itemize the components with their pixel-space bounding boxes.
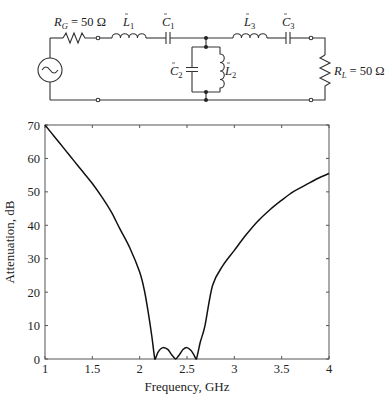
x-tick-label: 4 (326, 362, 333, 376)
terminal-node-top-right (309, 36, 313, 40)
x-tick-label: 3 (231, 362, 237, 376)
x-tick-label: 2.5 (179, 362, 195, 376)
attenuation-chart: 11.522.533.54 010203040506070 Frequency,… (0, 110, 392, 400)
terminal-node-bottom-right (309, 98, 313, 102)
label-rg: RG = 50 Ω (53, 15, 106, 31)
resistor-rg (63, 33, 96, 43)
sine-wave-icon (42, 67, 58, 73)
capacitor-c2 (186, 47, 198, 92)
y-tick-label: 40 (28, 219, 41, 233)
x-tick-label: 1 (42, 362, 48, 376)
y-tick-label: 0 (34, 353, 40, 367)
inductor-l1 (112, 34, 146, 38)
capacitor-c1 (166, 32, 170, 44)
x-axis-ticks: 11.522.533.54 (42, 125, 333, 376)
x-tick-label: 2 (137, 362, 143, 376)
capacitor-c3 (286, 32, 290, 44)
junction-dot-bottom-inner (204, 90, 208, 94)
inductor-l3 (233, 34, 267, 38)
resistor-rl (313, 55, 330, 100)
label-l1: L1 (122, 15, 134, 31)
x-tick-label: 1.5 (85, 362, 101, 376)
y-axis-ticks: 010203040506070 (28, 119, 330, 367)
label-rl: RL = 50 Ω (333, 64, 385, 80)
y-tick-label: 70 (28, 119, 41, 133)
y-tick-label: 10 (28, 319, 41, 333)
label-c3: C3 (282, 15, 295, 31)
y-tick-label: 60 (28, 152, 41, 166)
label-c1: C1 (162, 15, 175, 31)
circuit-diagram: RG = 50 Ω L1 C1 L3 C3 C2 L2 RL = 50 Ω (0, 0, 392, 110)
label-c2: C2 (170, 64, 183, 80)
plot-frame (45, 125, 329, 359)
inductor-l2 (220, 47, 224, 92)
x-axis-label: Frequency, GHz (144, 379, 229, 394)
junction-dot-bottom (204, 98, 208, 102)
y-tick-label: 20 (28, 286, 41, 300)
attenuation-curve (45, 125, 329, 359)
wire-node-rl (313, 38, 325, 55)
junction-dot-top-inner (204, 45, 208, 49)
label-l3: L3 (243, 15, 255, 31)
x-tick-label: 3.5 (274, 362, 290, 376)
terminal-node-top-left (96, 36, 100, 40)
y-tick-label: 30 (28, 252, 41, 266)
junction-dot-top (204, 36, 208, 40)
label-l2: L2 (224, 64, 236, 80)
y-tick-label: 50 (28, 185, 41, 199)
y-axis-label: Attenuation, dB (2, 200, 17, 283)
terminal-node-bottom-left (96, 98, 100, 102)
